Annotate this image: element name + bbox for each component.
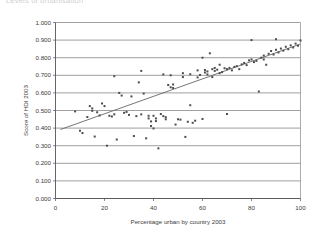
y-tick-label: 0.800 [36, 54, 52, 61]
data-point [280, 48, 282, 50]
data-point [104, 105, 106, 107]
data-point [292, 46, 294, 48]
data-point [202, 118, 204, 120]
data-point [251, 58, 253, 60]
data-point [273, 54, 275, 56]
data-point [94, 136, 96, 138]
data-point [155, 120, 157, 122]
data-point [219, 72, 221, 74]
data-point [255, 60, 257, 62]
data-point [258, 90, 260, 92]
x-axis-tick-labels: 020406080100 [54, 204, 306, 211]
y-tick-label: 0.700 [36, 71, 52, 78]
data-point [153, 115, 155, 117]
data-point [204, 69, 206, 71]
data-point [295, 43, 297, 45]
data-point [226, 113, 228, 115]
data-point [270, 50, 272, 52]
data-point [233, 66, 235, 68]
data-point [248, 59, 250, 61]
data-point [277, 51, 279, 53]
y-tick-label: 0.500 [36, 107, 52, 114]
data-point [177, 118, 179, 120]
data-point [260, 57, 262, 59]
data-point [192, 122, 194, 124]
data-point [236, 65, 238, 67]
y-tick-label: 0.200 [36, 159, 52, 166]
data-point [297, 45, 299, 47]
data-point [300, 39, 302, 41]
data-point [179, 119, 181, 121]
data-point [111, 115, 113, 117]
x-tick-label: 20 [101, 204, 108, 211]
data-point [81, 132, 83, 134]
data-point [214, 67, 216, 69]
data-point [153, 127, 155, 129]
data-point [113, 113, 115, 115]
data-point [209, 52, 211, 54]
x-tick-label: 80 [248, 204, 255, 211]
data-point [275, 49, 277, 51]
data-point [140, 113, 142, 115]
trend-line [60, 44, 300, 130]
data-point [202, 57, 204, 59]
y-axis-tick-labels: 0.0000.1000.2000.3000.4000.5000.6000.700… [36, 19, 52, 202]
data-point [263, 58, 265, 60]
data-point [197, 69, 199, 71]
data-point [172, 87, 174, 89]
data-point [91, 110, 93, 112]
data-point [113, 75, 115, 77]
data-point [214, 70, 216, 72]
data-point [265, 64, 267, 66]
y-tick-label: 0.100 [36, 177, 52, 184]
data-point [133, 135, 135, 137]
x-tick-label: 40 [150, 204, 157, 211]
x-tick-label: 100 [295, 204, 306, 211]
chart-figure: Levels of urbanisation 0.0000.1000.2000.… [0, 0, 320, 236]
data-point [211, 68, 213, 70]
data-point [226, 68, 228, 70]
data-point [189, 104, 191, 106]
data-point [182, 76, 184, 78]
data-point [216, 69, 218, 71]
data-point [182, 72, 184, 74]
data-point [251, 39, 253, 41]
data-point [140, 70, 142, 72]
data-point [243, 62, 245, 64]
data-point [160, 113, 162, 115]
data-point [241, 63, 243, 65]
data-point [89, 105, 91, 107]
data-point [162, 73, 164, 75]
data-point [172, 83, 174, 85]
data-point [204, 71, 206, 73]
data-point [206, 73, 208, 75]
data-point [126, 111, 128, 113]
data-point [194, 120, 196, 122]
data-point [96, 111, 98, 113]
data-point [189, 73, 191, 75]
data-point [170, 74, 172, 76]
data-point [287, 48, 289, 50]
data-point [155, 117, 157, 119]
data-point [275, 38, 277, 40]
data-point-group [74, 38, 301, 149]
gridlines-group [53, 23, 301, 199]
data-point [165, 118, 167, 120]
data-point [116, 139, 118, 141]
data-point [184, 136, 186, 138]
data-point [199, 74, 201, 76]
data-point [246, 64, 248, 66]
data-point [106, 145, 108, 147]
y-axis-title: Score of HDI 2003 [22, 84, 29, 135]
data-point [91, 107, 93, 109]
data-point [268, 53, 270, 55]
data-point [157, 147, 159, 149]
data-point [143, 93, 145, 95]
data-point [138, 81, 140, 83]
y-tick-label: 0.900 [36, 36, 52, 43]
data-point [231, 69, 233, 71]
data-point [135, 115, 137, 117]
data-point [197, 76, 199, 78]
scatter-plot: 0.0000.1000.2000.3000.4000.5000.6000.700… [0, 0, 320, 236]
data-point [228, 67, 230, 69]
